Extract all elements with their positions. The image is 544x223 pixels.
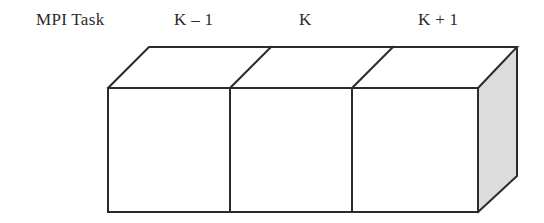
front-face-cell-k-minus-1 <box>108 88 230 212</box>
three-dimensional-block-row <box>0 0 544 223</box>
front-face-cell-k-plus-1 <box>352 88 478 212</box>
top-face <box>108 47 517 88</box>
front-face-cell-k <box>230 88 352 212</box>
mpi-task-decomposition-figure: MPI Task K – 1 K K + 1 <box>0 0 544 223</box>
